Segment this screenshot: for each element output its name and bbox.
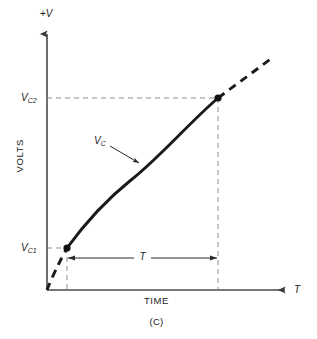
vc-symbol: V <box>94 135 101 146</box>
figure-caption-text: (C) <box>149 316 163 327</box>
y-tick-label-vc2: VC2 <box>21 93 37 103</box>
vc-subscript: C <box>101 140 106 147</box>
data-point-vc2 <box>214 94 221 101</box>
plot-canvas <box>0 0 317 339</box>
y-axis-symbol: +V <box>40 9 53 19</box>
x-axis-title: TIME <box>0 296 315 306</box>
capacitor-charging-curve <box>67 98 218 248</box>
x-axis-symbol: T <box>294 285 300 295</box>
curve-extension-upper <box>218 58 272 98</box>
vc2-symbol: V <box>21 92 28 103</box>
curve-label-vc: VC <box>94 136 106 146</box>
vc2-subscript: C2 <box>28 97 37 104</box>
y-axis-symbol-letter: V <box>46 8 53 19</box>
x-axis-title-text: TIME <box>144 295 169 306</box>
curve-label-leader-line <box>110 146 139 163</box>
data-point-vc1 <box>63 244 70 251</box>
dimension-label-T: T <box>0 252 285 262</box>
dimension-label-T-text: T <box>134 251 150 262</box>
figure-container: +V VOLTS VC2 VC1 VC T TIME T (C) <box>0 0 317 339</box>
y-axis-title: VOLTS <box>15 134 25 178</box>
figure-caption: (C) <box>0 317 315 327</box>
